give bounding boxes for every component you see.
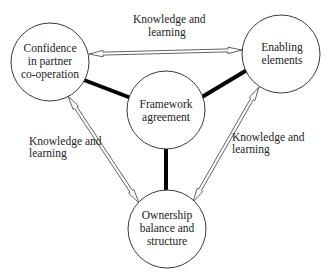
framework-line-2: agreement (142, 111, 191, 124)
framework-circle (127, 71, 205, 149)
ownership-line-2: balance and (140, 222, 195, 234)
edge-label-top: Knowledge and learning (133, 13, 206, 39)
confidence-line-2: in partner (28, 55, 73, 68)
edge-label-left: Knowledge and learning (29, 135, 102, 160)
confidence-line-1: Confidence (23, 42, 76, 54)
edge-label-left-line-2: learning (29, 147, 67, 160)
ownership-line-3: structure (147, 235, 187, 247)
node-enabling: Enabling elements (242, 15, 320, 93)
arrow-confidence-enabling (89, 47, 242, 57)
diagram-canvas: Confidence in partner co-operation Enabl… (0, 0, 334, 272)
edge-label-top-line-1: Knowledge and (133, 13, 206, 26)
link-confidence-framework (84, 80, 131, 98)
edge-label-right: Knowledge and learning (232, 131, 305, 156)
framework-line-1: Framework (139, 98, 192, 110)
edge-label-top-line-2: learning (148, 26, 186, 39)
edge-label-right-line-2: learning (232, 143, 270, 156)
node-framework: Framework agreement (127, 71, 205, 149)
node-confidence: Confidence in partner co-operation (11, 23, 89, 101)
enabling-line-1: Enabling (261, 41, 303, 54)
link-enabling-framework (202, 70, 247, 97)
enabling-line-2: elements (262, 54, 303, 66)
confidence-line-3: co-operation (21, 68, 79, 81)
node-ownership: Ownership balance and structure (128, 190, 206, 268)
ownership-line-1: Ownership (142, 209, 193, 222)
